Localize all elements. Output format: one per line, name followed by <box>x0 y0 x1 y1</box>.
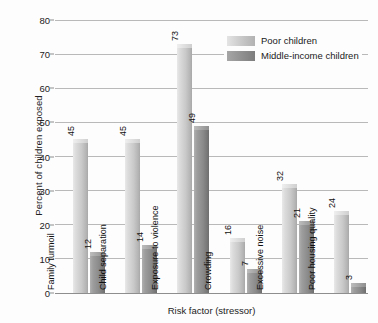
legend-swatch-icon <box>227 36 255 46</box>
bar-value-label: 24 <box>327 198 337 208</box>
y-axis-tick-label: 30 <box>39 185 50 196</box>
bar-value-label: 3 <box>344 275 354 280</box>
bar: 24 <box>334 211 349 293</box>
legend-swatch-icon <box>227 51 255 61</box>
y-axis-tick-label: 60 <box>39 83 50 94</box>
x-axis-category-label: Excessive noise <box>255 225 265 290</box>
legend-label: Middle-income children <box>261 50 359 61</box>
y-axis-tick-mark <box>50 293 54 294</box>
x-axis-category-label: Family turmoil <box>46 233 56 290</box>
x-axis-title: Risk factor (stressor) <box>55 305 368 316</box>
bar-front-face <box>125 143 140 293</box>
bar: 73 <box>177 44 192 293</box>
chart-legend: Poor children Middle-income children <box>224 31 362 66</box>
bar-front-face <box>230 242 245 293</box>
y-axis-tick-mark <box>50 122 54 123</box>
y-axis-tick-mark <box>50 88 54 89</box>
bar-value-label: 73 <box>170 31 180 41</box>
bar-value-label: 14 <box>135 232 145 242</box>
x-axis-category-label: Child separation <box>98 224 108 290</box>
bar-front-face <box>334 215 349 293</box>
y-axis-tick-label: 20 <box>39 219 50 230</box>
x-axis-category-label: Exposure to violence <box>150 205 160 290</box>
legend-item-middle-income-children: Middle-income children <box>227 48 359 63</box>
bar-value-label: 12 <box>83 239 93 249</box>
x-axis-category-label: Crowding <box>203 252 213 290</box>
bar-value-label: 49 <box>187 113 197 123</box>
y-axis-tick-mark <box>50 156 54 157</box>
y-axis-tick-label: 70 <box>39 49 50 60</box>
bar-front-face <box>177 48 192 293</box>
bar: 32 <box>282 184 297 293</box>
bar: 45 <box>125 139 140 293</box>
bar-value-label: 21 <box>292 208 302 218</box>
x-axis-category-label: Poor housing quality <box>307 207 317 290</box>
bar-value-label: 7 <box>240 261 250 266</box>
y-axis-tick-label: 80 <box>39 15 50 26</box>
bar-front-face <box>282 188 297 293</box>
bar-value-label: 45 <box>66 126 76 136</box>
bar-value-label: 45 <box>118 126 128 136</box>
bar-value-label: 32 <box>275 171 285 181</box>
y-axis-tick-mark <box>50 54 54 55</box>
bar-front-face <box>351 287 366 293</box>
bar-front-face <box>73 143 88 293</box>
legend-item-poor-children: Poor children <box>227 33 359 48</box>
y-axis-tick-label: 40 <box>39 151 50 162</box>
y-axis-tick-label: 50 <box>39 117 50 128</box>
bar-value-label: 16 <box>223 225 233 235</box>
y-axis-tick-mark <box>50 20 54 21</box>
legend-label: Poor children <box>261 35 317 46</box>
bar: 3 <box>351 283 366 293</box>
bar: 45 <box>73 139 88 293</box>
bar-chart: Percent of children exposed 010203040506… <box>0 0 378 323</box>
y-axis-tick-mark <box>50 224 54 225</box>
y-axis-tick-mark <box>50 190 54 191</box>
